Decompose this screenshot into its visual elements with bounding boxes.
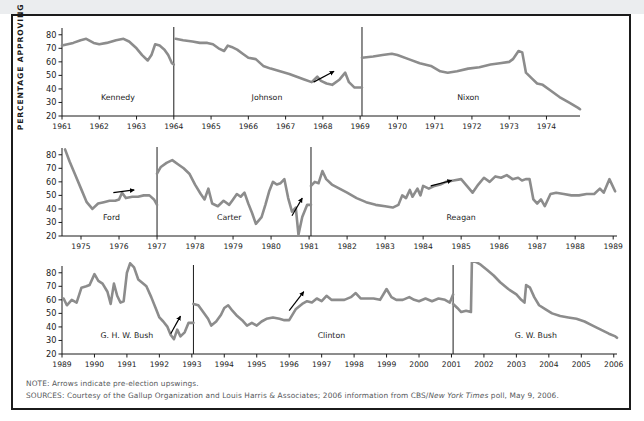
chart-row-2: 2030405060708019751976197719781979198019… [40,144,632,256]
x-tick-label: 1962 [90,122,109,131]
x-tick-label: 2003 [507,360,526,369]
x-tick-label: 2004 [539,360,558,369]
x-tick-label: 1963 [127,122,146,131]
x-tick-label: 1978 [185,242,204,251]
x-tick-label: 1980 [261,242,280,251]
president-label: Carter [217,213,242,222]
x-tick-label: 1975 [71,242,90,251]
sources-text: SOURCES: Courtesy of the Gallup Organiza… [26,391,559,400]
x-tick-label: 1966 [239,122,258,131]
x-tick-label: 2006 [604,360,623,369]
x-tick-label: 1981 [299,242,318,251]
y-tick-label: 70 [46,281,56,291]
x-tick-label: 1992 [150,360,169,369]
approval-line [311,171,615,208]
top-scan-band [0,0,644,14]
x-tick-label: 1972 [462,122,481,131]
sources-italic-title: New York Times [428,391,488,400]
x-tick-label: 1971 [425,122,444,131]
note-text: NOTE: Arrows indicate pre-election upswi… [26,379,199,388]
y-tick-label: 50 [46,308,56,318]
y-tick-label: 80 [46,268,56,278]
x-tick-label: 1985 [451,242,470,251]
x-tick-label: 1998 [344,360,363,369]
y-tick-label: 20 [46,349,56,359]
x-tick-label: 1974 [537,122,556,131]
x-tick-label: 2002 [474,360,493,369]
president-label: G. H. W. Bush [101,331,154,340]
president-label: Johnson [251,93,283,102]
y-tick-label: 20 [46,231,56,241]
president-label: G. W. Bush [515,331,557,340]
x-tick-label: 1996 [280,360,299,369]
x-tick-label: 1997 [312,360,331,369]
figure-page: PERCENTAGE APPROVING 2030405060708019611… [0,0,644,421]
x-tick-label: 1969 [350,122,369,131]
x-tick-label: 1968 [313,122,332,131]
y-tick-label: 50 [46,70,56,80]
sources-suffix: poll, May 9, 2006. [488,391,558,400]
y-tick-label: 30 [46,217,56,227]
y-tick-label: 40 [46,84,56,94]
x-tick-label: 1990 [85,360,104,369]
x-tick-label: 1979 [223,242,242,251]
approval-line [176,39,362,88]
approval-line [157,160,311,234]
x-tick-label: 2001 [442,360,461,369]
approval-line [62,39,174,65]
x-tick-label: 1993 [182,360,201,369]
x-tick-label: 1991 [117,360,136,369]
x-tick-label: 1999 [377,360,396,369]
x-tick-label: 2000 [409,360,428,369]
x-tick-label: 1967 [276,122,295,131]
chart-row-1: 2030405060708019611962196319641965196619… [40,24,632,136]
x-tick-label: 1977 [147,242,166,251]
y-tick-label: 70 [46,163,56,173]
president-label: Clinton [318,331,346,340]
approval-line [453,262,617,338]
x-tick-label: 1988 [566,242,585,251]
president-label: Ford [103,213,120,222]
y-tick-label: 60 [46,295,56,305]
y-tick-label: 20 [46,111,56,121]
president-label: Kennedy [101,93,135,102]
x-tick-label: 1973 [500,122,519,131]
x-tick-label: 2005 [572,360,591,369]
y-tick-label: 40 [46,204,56,214]
upswing-arrow-icon [113,190,134,193]
x-tick-label: 1994 [215,360,234,369]
y-tick-label: 40 [46,322,56,332]
x-tick-label: 1982 [337,242,356,251]
chart-row-3: 2030405060708019891990199119921993199419… [40,262,632,374]
x-tick-label: 1995 [247,360,266,369]
x-tick-label: 1987 [528,242,547,251]
y-tick-label: 80 [46,150,56,160]
president-label: Reagan [446,213,475,222]
y-tick-label: 60 [46,57,56,67]
x-tick-label: 1961 [52,122,71,131]
x-tick-label: 1965 [201,122,220,131]
x-tick-label: 1976 [109,242,128,251]
sources-prefix: SOURCES: Courtesy of the Gallup Organiza… [26,391,428,400]
y-tick-label: 80 [46,30,56,40]
x-tick-label: 1986 [489,242,508,251]
y-tick-label: 30 [46,335,56,345]
x-tick-label: 1989 [52,360,71,369]
approval-line [193,289,453,326]
y-tick-label: 30 [46,97,56,107]
y-tick-label: 60 [46,177,56,187]
x-tick-label: 1989 [604,242,623,251]
approval-line [65,149,157,209]
x-tick-label: 1983 [375,242,394,251]
y-tick-label: 70 [46,43,56,53]
x-tick-label: 1984 [413,242,432,251]
y-tick-label: 50 [46,190,56,200]
x-tick-label: 1964 [164,122,183,131]
president-label: Nixon [457,93,479,102]
y-axis-label: PERCENTAGE APPROVING [14,2,28,132]
x-tick-label: 1970 [388,122,407,131]
